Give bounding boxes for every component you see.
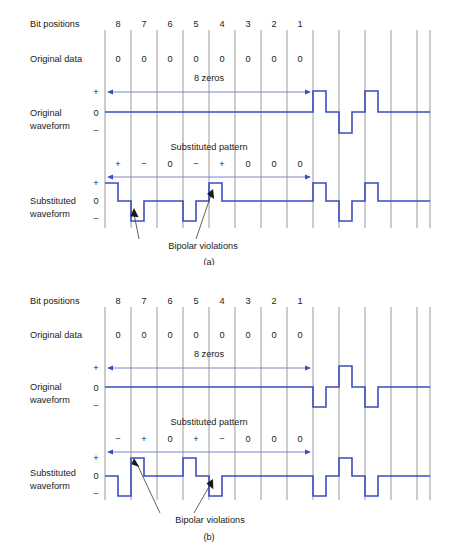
axis-tick-plus-a-sub: + <box>93 178 98 188</box>
violation-leader-arrow-b-2 <box>206 479 213 489</box>
original-data-b-0: 0 <box>115 330 120 340</box>
eight-zeros-annotation-a: 8 zeros <box>194 73 225 83</box>
bit-position-b-2: 2 <box>271 296 276 306</box>
original-waveform-label-a-l1: Original <box>30 108 62 118</box>
panel-a: Bit positions Original data Original wav… <box>0 0 461 265</box>
substituted-waveform-label-a-l2: waveform <box>29 209 70 219</box>
bit-position-a-4: 4 <box>219 19 224 29</box>
original-data-a-0: 0 <box>115 54 120 64</box>
bit-position-b-3: 3 <box>245 296 250 306</box>
original-data-label-b: Original data <box>30 330 83 340</box>
original-data-a-2: 0 <box>167 54 172 64</box>
original-data-b-2: 0 <box>167 330 172 340</box>
substituted-pattern-a-3: − <box>193 159 198 169</box>
substituted-waveform-label-b-l1: Substituted <box>30 468 76 478</box>
original-waveform-a <box>105 91 430 133</box>
bipolar-violations-annotation-a: Bipolar violations <box>168 241 238 251</box>
axis-tick-zero-b-sub: 0 <box>93 471 98 481</box>
panel-b-canvas: Bit positions Original data Original wav… <box>0 272 461 537</box>
original-data-a-1: 0 <box>141 54 146 64</box>
original-data-label-a: Original data <box>30 54 83 64</box>
bit-position-b-1: 1 <box>297 296 302 306</box>
original-data-a-3: 0 <box>193 54 198 64</box>
substituted-pattern-a-1: − <box>141 159 146 169</box>
original-waveform-label-b-l2: waveform <box>29 395 70 405</box>
violation-leader-line-b-1 <box>137 464 160 513</box>
violation-leader-arrow-a-2 <box>207 189 214 199</box>
axis-tick-minus-b-sub: − <box>93 489 98 499</box>
original-waveform-label-a-l2: waveform <box>29 121 70 131</box>
violation-leader-arrow-b-1 <box>131 458 139 467</box>
grid-lines-b <box>105 307 430 500</box>
bit-position-b-7: 7 <box>141 296 146 306</box>
substituted-pattern-b-1: + <box>141 434 146 444</box>
bit-positions-label-b: Bit positions <box>30 296 80 306</box>
substituted-pattern-b-2: 0 <box>167 434 172 444</box>
bit-position-a-7: 7 <box>141 19 146 29</box>
axis-tick-minus-a-sub: − <box>93 214 98 224</box>
substituted-pattern-b-0: − <box>115 434 120 444</box>
bit-position-a-6: 6 <box>167 19 172 29</box>
grid-lines-a <box>105 30 430 228</box>
bit-position-b-5: 5 <box>193 296 198 306</box>
bit-positions-label-a: Bit positions <box>30 19 80 29</box>
original-data-b-3: 0 <box>193 330 198 340</box>
substituted-pattern-b-6: 0 <box>271 434 276 444</box>
axis-tick-plus-b-sub: + <box>93 453 98 463</box>
axis-tick-zero-a-orig: 0 <box>93 108 98 118</box>
original-data-a-4: 0 <box>219 54 224 64</box>
bit-position-a-1: 1 <box>297 19 302 29</box>
original-waveform-b <box>105 366 430 407</box>
original-data-a-5: 0 <box>245 54 250 64</box>
substituted-pattern-a-6: 0 <box>271 159 276 169</box>
substituted-pattern-a-7: 0 <box>297 159 302 169</box>
substituted-waveform-label-b-l2: waveform <box>29 481 70 491</box>
substituted-waveform-a <box>105 183 430 221</box>
panel-a-canvas: Bit positions Original data Original wav… <box>0 0 461 265</box>
substituted-pattern-b-4: − <box>219 434 224 444</box>
bit-position-a-5: 5 <box>193 19 198 29</box>
substituted-pattern-a-2: 0 <box>167 159 172 169</box>
original-data-b-1: 0 <box>141 330 146 340</box>
bit-position-b-8: 8 <box>115 296 120 306</box>
bit-position-b-6: 6 <box>167 296 172 306</box>
substituted-pattern-a-5: 0 <box>245 159 250 169</box>
axis-tick-minus-a-orig: − <box>93 126 98 136</box>
original-data-a-6: 0 <box>271 54 276 64</box>
violation-leader-line-a-1 <box>134 214 139 239</box>
original-waveform-label-b-l1: Original <box>30 382 62 392</box>
substituted-pattern-b-5: 0 <box>245 434 250 444</box>
panel-caption-b: (b) <box>203 532 214 542</box>
substituted-pattern-a-4: + <box>219 159 224 169</box>
bit-position-b-4: 4 <box>219 296 224 306</box>
original-data-b-7: 0 <box>297 330 302 340</box>
axis-tick-minus-b-orig: − <box>93 401 98 411</box>
bit-position-a-8: 8 <box>115 19 120 29</box>
axis-tick-zero-b-orig: 0 <box>93 383 98 393</box>
substituted-waveform-b <box>105 458 430 496</box>
substituted-pattern-b-3: + <box>193 434 198 444</box>
substituted-waveform-label-a-l1: Substituted <box>30 196 76 206</box>
panel-b: Bit positions Original data Original wav… <box>0 272 461 537</box>
violation-leader-line-b-2 <box>194 485 210 513</box>
original-data-b-6: 0 <box>271 330 276 340</box>
bit-position-a-3: 3 <box>245 19 250 29</box>
eight-zeros-annotation-b: 8 zeros <box>194 349 225 359</box>
bit-position-a-2: 2 <box>271 19 276 29</box>
axis-tick-plus-b-orig: + <box>93 363 98 373</box>
axis-tick-zero-a-sub: 0 <box>93 196 98 206</box>
substituted-pattern-a-0: + <box>115 159 120 169</box>
original-data-a-7: 0 <box>297 54 302 64</box>
axis-tick-plus-a-orig: + <box>93 87 98 97</box>
original-data-b-4: 0 <box>219 330 224 340</box>
substituted-pattern-annotation-a: Substituted pattern <box>170 142 247 152</box>
panel-caption-a: (a) <box>203 257 214 265</box>
substituted-pattern-annotation-b: Substituted pattern <box>170 417 247 427</box>
bipolar-violations-annotation-b: Bipolar violations <box>175 515 245 525</box>
original-data-b-5: 0 <box>245 330 250 340</box>
substituted-pattern-b-7: 0 <box>297 434 302 444</box>
